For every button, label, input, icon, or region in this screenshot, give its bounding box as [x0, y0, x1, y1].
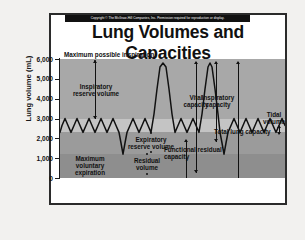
y-tick-label-2000: 2,000	[36, 135, 53, 142]
total-lung-capacity-arrow-line	[238, 62, 239, 178]
y-tick-2000	[55, 138, 59, 139]
y-tick-label-5000: 5,000	[36, 75, 53, 82]
tidal-volume-arrow-top	[277, 125, 281, 128]
frc-arrow-top	[184, 139, 188, 142]
y-tick-1000	[55, 158, 59, 159]
copyright-bar: Copyright © The McGraw-Hill Companies, I…	[65, 15, 250, 22]
y-tick-0	[55, 178, 59, 179]
y-tick-3000	[55, 119, 59, 120]
irv-arrow-top	[93, 60, 97, 63]
erv-marker-top	[150, 132, 152, 134]
irv-arrow-bottom	[93, 116, 97, 119]
rv-marker-bottom	[146, 173, 148, 175]
annotation-max-voluntary-expiration: Maximum voluntary expiration	[62, 155, 118, 177]
erv-marker-bottom	[150, 151, 152, 153]
y-tick-4000	[55, 99, 59, 100]
y-axis-label: Lung volume (mL)	[24, 41, 33, 137]
total-lung-capacity-arrow-top	[236, 61, 240, 64]
annotation-tidal-volume: Tidal volume	[258, 111, 290, 125]
annotation-inspiratory-capacity: Inspiratory capacity	[196, 94, 240, 108]
lung-volumes-figure: Copyright © The McGraw-Hill Companies, I…	[0, 0, 305, 240]
annotation-max-inspiration: Maximum possible inspiration	[64, 51, 154, 58]
vital-capacity-arrow-bottom	[194, 170, 198, 173]
y-tick-label-0: 0	[49, 175, 53, 182]
y-tick-label-4000: 4,000	[36, 95, 53, 102]
vital-capacity-arrow-top	[194, 61, 198, 64]
y-tick-label-6000: 6,000	[36, 56, 53, 63]
tidal-volume-arrow-bottom	[277, 132, 281, 135]
y-tick-label-3000: 3,000	[36, 115, 53, 122]
annotation-inspiratory-reserve-volume: Inspiratory reserve volume	[62, 83, 130, 97]
rv-marker-top	[146, 153, 148, 155]
annotation-total-lung-capacity: Total lung capacity	[214, 128, 282, 135]
inspiratory-capacity-arrow-top	[214, 61, 218, 64]
copyright-text: Copyright © The McGraw-Hill Companies, I…	[65, 15, 250, 22]
y-tick-5000	[55, 79, 59, 80]
inspiratory-capacity-arrow-bottom	[214, 139, 218, 142]
annotation-functional-residual-capacity: Functional residual capacity	[164, 146, 238, 160]
y-tick-label-1000: 1,000	[36, 155, 53, 162]
y-tick-6000	[55, 59, 59, 60]
